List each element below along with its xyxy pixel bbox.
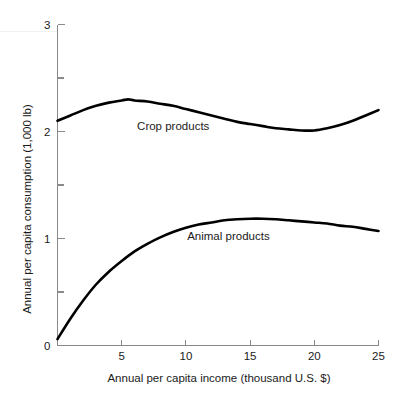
x-tick-label: 15 — [244, 350, 257, 362]
x-axis-title: Annual per capita income (thousand U.S. … — [107, 372, 330, 384]
axis-ticks — [58, 25, 379, 346]
series-line-crop-products — [58, 99, 379, 130]
series-label-animal-products: Animal products — [187, 230, 270, 242]
x-tick-label: 25 — [372, 350, 385, 362]
y-axis-title: Annual per capita consumption (1,000 lb) — [21, 104, 33, 314]
x-tick-label: 5 — [118, 350, 124, 362]
x-tick-label: 10 — [180, 350, 193, 362]
chart-container: 510152025 0123 Crop productsAnimal produ… — [0, 0, 410, 399]
series-lines — [58, 99, 379, 339]
x-tick-labels: 510152025 — [118, 350, 384, 362]
x-tick-label: 20 — [308, 350, 321, 362]
y-tick-label: 1 — [44, 233, 50, 245]
series-label-crop-products: Crop products — [137, 120, 209, 132]
y-tick-labels: 0123 — [44, 19, 50, 352]
axes — [58, 25, 379, 346]
line-chart: 510152025 0123 Crop productsAnimal produ… — [0, 0, 410, 399]
y-tick-label: 0 — [44, 340, 50, 352]
y-tick-label: 2 — [44, 126, 50, 138]
y-tick-label: 3 — [44, 19, 50, 31]
